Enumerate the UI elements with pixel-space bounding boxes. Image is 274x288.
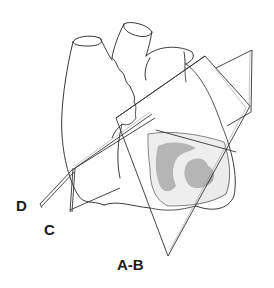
heart-outline	[62, 42, 104, 205]
aorta-vessel	[124, 22, 152, 36]
heart-illustration	[0, 0, 274, 288]
plane-label-c: C	[44, 222, 55, 237]
svc-vessel	[73, 36, 102, 46]
plane-label-d: D	[16, 198, 27, 213]
plane-label-ab: A-B	[117, 257, 144, 272]
plane-ab	[116, 56, 250, 256]
heart-plane-diagram: D C A-B	[0, 0, 274, 288]
